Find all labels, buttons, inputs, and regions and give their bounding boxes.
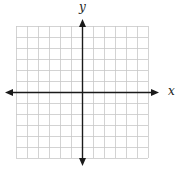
x-axis-right-arrow-icon	[151, 89, 159, 96]
y-axis-down-arrow-icon	[79, 158, 86, 166]
x-axis-left-arrow-icon	[5, 89, 13, 96]
x-axis-label: x	[168, 85, 175, 97]
coordinate-plane	[0, 0, 177, 169]
y-axis-up-arrow-icon	[79, 19, 86, 27]
axes	[5, 19, 159, 166]
y-axis-label: y	[79, 1, 86, 13]
